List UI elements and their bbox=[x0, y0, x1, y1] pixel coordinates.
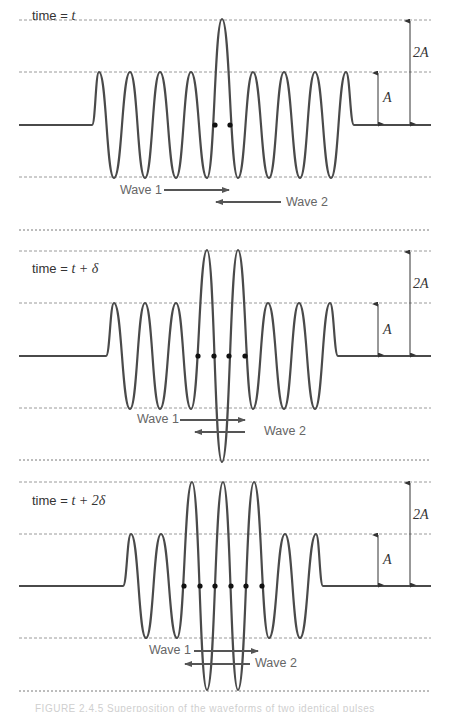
wave2-label-panel-2: Wave 2 bbox=[264, 424, 306, 438]
time-label-panel-1: time = t bbox=[32, 8, 75, 24]
node-dot bbox=[181, 583, 186, 588]
waveform-panel-1 bbox=[19, 19, 431, 178]
superposition-diagram: time = t Wave 1 Wave 2 A 2A time = t + δ… bbox=[0, 0, 453, 712]
waveforms bbox=[19, 19, 431, 690]
node-dot bbox=[227, 122, 232, 127]
time-math: t bbox=[71, 8, 75, 23]
node-dot bbox=[259, 583, 264, 588]
wave2-label-panel-1: Wave 2 bbox=[286, 195, 328, 209]
node-dot bbox=[228, 583, 233, 588]
wave1-label-panel-2: Wave 1 bbox=[137, 412, 179, 426]
wave1-label-panel-3: Wave 1 bbox=[149, 643, 191, 657]
wave1-label-panel-1: Wave 1 bbox=[120, 183, 162, 197]
amplitude-2A-label-panel-3: 2A bbox=[413, 507, 429, 523]
node-dot bbox=[212, 583, 217, 588]
time-math: t + 2δ bbox=[71, 493, 105, 508]
node-dot bbox=[197, 583, 202, 588]
figure-caption: FIGURE 2.4.5 Superposition of the wavefo… bbox=[35, 703, 425, 712]
waveform-panel-3 bbox=[19, 482, 431, 690]
wave2-label-panel-3: Wave 2 bbox=[255, 656, 297, 670]
time-prefix: time = bbox=[32, 493, 71, 508]
node-dot bbox=[195, 353, 200, 358]
waveform-panel-2 bbox=[19, 250, 431, 462]
amplitude-2A-label-panel-2: 2A bbox=[413, 276, 429, 292]
node-dot bbox=[242, 353, 247, 358]
node-dot bbox=[211, 353, 216, 358]
amplitude-A-label-panel-1: A bbox=[383, 90, 392, 106]
time-label-panel-3: time = t + 2δ bbox=[32, 493, 105, 509]
node-dot bbox=[212, 122, 217, 127]
amplitude-A-label-panel-3: A bbox=[383, 552, 392, 568]
node-dot bbox=[243, 583, 248, 588]
time-prefix: time = bbox=[32, 8, 71, 23]
time-math: t + δ bbox=[71, 261, 98, 276]
amplitude-2A-label-panel-1: 2A bbox=[413, 45, 429, 61]
amplitude-A-label-panel-2: A bbox=[383, 322, 392, 338]
time-prefix: time = bbox=[32, 261, 71, 276]
time-label-panel-2: time = t + δ bbox=[32, 261, 98, 277]
node-dot bbox=[226, 353, 231, 358]
diagram-canvas bbox=[0, 0, 453, 712]
